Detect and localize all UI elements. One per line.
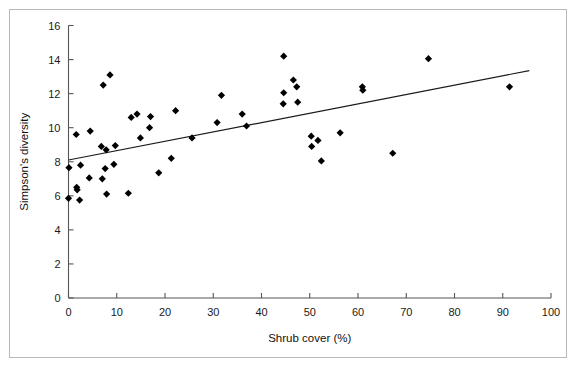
x-axis-title: Shrub cover (%) [268, 332, 351, 344]
data-point [87, 127, 94, 134]
data-point [100, 82, 107, 89]
data-point [314, 137, 321, 144]
data-point [318, 157, 325, 164]
x-tick-label: 10 [111, 306, 123, 318]
x-tick-label: 60 [352, 306, 364, 318]
data-point [506, 83, 513, 90]
data-point [112, 142, 119, 149]
x-tick-label: 90 [497, 306, 509, 318]
data-point [172, 107, 179, 114]
x-tick-label: 40 [255, 306, 267, 318]
data-point [294, 99, 301, 106]
data-point [86, 174, 93, 181]
data-point [280, 100, 287, 107]
x-tick-label: 100 [542, 306, 560, 318]
data-point [110, 161, 117, 168]
y-tick-label: 14 [48, 54, 60, 66]
axes [69, 26, 552, 299]
x-tick-label: 20 [159, 306, 171, 318]
data-point [99, 175, 106, 182]
data-point [102, 165, 109, 172]
y-tick-label: 4 [54, 224, 60, 236]
data-point [77, 162, 84, 169]
y-tick-label: 10 [48, 122, 60, 134]
x-tick-label: 70 [400, 306, 412, 318]
data-point [308, 143, 315, 150]
data-point [425, 55, 432, 62]
data-point [125, 190, 132, 197]
data-point [239, 110, 246, 117]
data-point [73, 131, 80, 138]
y-tick-label: 12 [48, 88, 60, 100]
data-point [133, 110, 140, 117]
data-point [103, 191, 110, 198]
x-tick-label: 0 [65, 306, 71, 318]
y-tick-label: 6 [54, 190, 60, 202]
data-point [137, 134, 144, 141]
data-point [280, 89, 287, 96]
data-point [243, 122, 250, 129]
x-tick-label: 50 [304, 306, 316, 318]
data-point [337, 129, 344, 136]
data-point [128, 114, 135, 121]
x-tick-label: 30 [207, 306, 219, 318]
y-axis-title: Simpson's diversity [18, 112, 30, 210]
data-point [65, 164, 72, 171]
y-tick-label: 8 [54, 156, 60, 168]
data-point [293, 83, 300, 90]
data-point [280, 53, 287, 60]
data-point [147, 113, 154, 120]
data-point [290, 76, 297, 83]
data-point [218, 92, 225, 99]
y-tick-label: 0 [54, 292, 60, 304]
data-point [168, 155, 175, 162]
data-points [65, 53, 513, 204]
scatter-plot: 02468101214160102030405060708090100Shrub… [0, 0, 578, 373]
data-point [389, 150, 396, 157]
data-point [214, 119, 221, 126]
data-point [146, 124, 153, 131]
figure-container: 02468101214160102030405060708090100Shrub… [0, 0, 578, 373]
data-point [76, 196, 83, 203]
data-point [155, 169, 162, 176]
data-point [308, 133, 315, 140]
y-tick-label: 2 [54, 258, 60, 270]
axis-labels: 02468101214160102030405060708090100Shrub… [18, 20, 560, 345]
data-point [106, 71, 113, 78]
y-tick-label: 16 [48, 20, 60, 32]
x-tick-label: 80 [448, 306, 460, 318]
